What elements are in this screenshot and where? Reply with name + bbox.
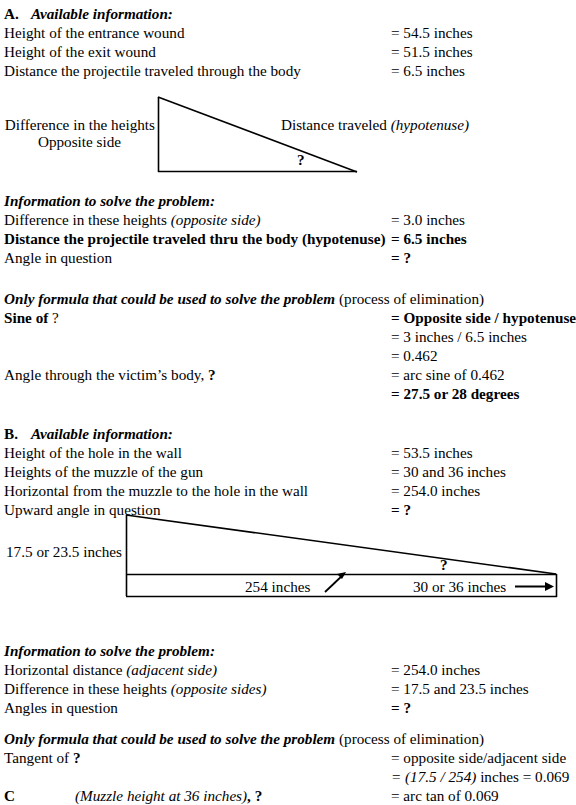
row-label: Distance the projectile traveled thru th… [4, 229, 385, 248]
hypotenuse-italic-text: (hypotenuse) [391, 116, 469, 133]
info-row: Height of the exit wound = 51.5 inches [0, 42, 571, 61]
row-value: = 3.0 inches [391, 210, 465, 229]
info-row: Angles in question = ? [0, 698, 571, 717]
formula-row: Tangent of ? = opposite side/adjacent si… [0, 748, 571, 767]
info-row: Difference in these heights (opposite si… [0, 679, 571, 698]
row-value: = 27.5 or 28 degrees [391, 384, 519, 403]
row-value: = 51.5 inches [391, 42, 473, 61]
row-label: Difference in these heights (opposite si… [4, 679, 267, 698]
info-row: Heights of the muzzle of the gun = 30 an… [0, 462, 571, 481]
info-b-heading: Information to solve the problem: [0, 641, 571, 660]
heading-text: Only formula that could be used to solve… [4, 289, 484, 308]
row-value: = (17.5 / 254) inches = 0.069 [391, 767, 569, 786]
row-value: = 30 and 36 inches [391, 462, 506, 481]
diagram-a-opposite-label-line2: Opposite side [4, 133, 155, 150]
hypotenuse-text: Distance traveled [281, 116, 387, 133]
row-label: Height of the exit wound [4, 42, 156, 61]
info-row: Horizontal from the muzzle to the hole i… [0, 481, 571, 500]
row-label: Distance the projectile traveled through… [4, 61, 301, 80]
formula-row: = 27.5 or 28 degrees [0, 384, 571, 403]
row-label: Difference in these heights (opposite si… [4, 210, 261, 229]
section-b-title: Available information: [31, 424, 173, 443]
section-c-title: (Muzzle height at 36 inches), ? [75, 786, 262, 805]
row-label: Heights of the muzzle of the gun [4, 462, 203, 481]
row-value: = ? [391, 248, 411, 267]
info-row: Height of the hole in the wall = 53.5 in… [0, 443, 571, 462]
row-label: Sine of ? [4, 308, 59, 327]
section-a-heading: A. Available information: [0, 4, 571, 23]
info-row: Difference in these heights (opposite si… [0, 210, 571, 229]
row-value: = 6.5 inches [391, 61, 465, 80]
info-row: Angle in question = ? [0, 248, 571, 267]
row-value: = Opposite side / hypotenuse [391, 308, 576, 327]
formula-row: = (17.5 / 254) inches = 0.069 [0, 767, 571, 786]
diagram-b-base-right-label: 30 or 36 inches [413, 578, 506, 595]
row-value: = 53.5 inches [391, 443, 473, 462]
diagram-a-angle-marker: ? [297, 152, 305, 167]
row-value: = 3 inches / 6.5 inches [391, 327, 527, 346]
row-label: Angle through the victim’s body, ? [4, 365, 216, 384]
diagram-b: 17.5 or 23.5 inches 254 inches 30 or 36 … [0, 508, 571, 603]
info-row: Distance the projectile traveled thru th… [0, 229, 571, 248]
section-b-heading: B. Available information: [0, 424, 571, 443]
row-label: Angle in question [4, 248, 112, 267]
section-c-row: C (Muzzle height at 36 inches), ? = arc … [0, 786, 571, 805]
diagram-a-hypotenuse-label: Distance traveled (hypotenuse) [281, 116, 469, 133]
row-label: Horizontal distance (adjacent side) [4, 660, 217, 679]
row-value: = arc sine of 0.462 [391, 365, 505, 384]
formula-row: = 3 inches / 6.5 inches [0, 327, 571, 346]
formula-row: Sine of ? = Opposite side / hypotenuse [0, 308, 571, 327]
row-label: Horizontal from the muzzle to the hole i… [4, 481, 308, 500]
row-label: Angles in question [4, 698, 118, 717]
diagram-a-opposite-label-line1: Difference in the heights [4, 116, 155, 133]
row-value: = 17.5 and 23.5 inches [391, 679, 529, 698]
heading-text: Only formula that could be used to solve… [4, 729, 484, 748]
section-c-letter: C [4, 786, 15, 805]
section-b-letter: B. [4, 424, 18, 443]
row-value: = arc tan of 0.069 [391, 786, 499, 805]
row-value: = 254.0 inches [391, 660, 480, 679]
formula-b-heading: Only formula that could be used to solve… [0, 729, 571, 748]
formula-row: Angle through the victim’s body, ? = arc… [0, 365, 571, 384]
row-label: Height of the entrance wound [4, 23, 185, 42]
formula-row: = 0.462 [0, 346, 571, 365]
info-row: Distance the projectile traveled through… [0, 61, 571, 80]
row-value: = 6.5 inches [391, 229, 467, 248]
row-value: = ? [391, 698, 411, 717]
row-value: = 254.0 inches [391, 481, 480, 500]
row-value: = 54.5 inches [391, 23, 473, 42]
diagram-a: Difference in the heights Opposite side … [0, 90, 571, 180]
info-row: Height of the entrance wound = 54.5 inch… [0, 23, 571, 42]
section-a-letter: A. [4, 4, 19, 23]
diagram-b-angle-marker: ? [440, 557, 448, 572]
row-value: = opposite side/adjacent side [391, 748, 566, 767]
row-label: Height of the hole in the wall [4, 443, 182, 462]
row-label: Tangent of ? [4, 748, 81, 767]
info-row: Horizontal distance (adjacent side) = 25… [0, 660, 571, 679]
diagram-b-base-left-label: 254 inches [245, 578, 310, 595]
diagram-b-opposite-label: 17.5 or 23.5 inches [2, 543, 122, 560]
formula-a-heading: Only formula that could be used to solve… [0, 289, 571, 308]
heading-text: Information to solve the problem: [4, 641, 215, 660]
heading-text: Information to solve the problem: [4, 191, 215, 210]
row-value: = 0.462 [391, 346, 438, 365]
info-a-heading: Information to solve the problem: [0, 191, 571, 210]
section-a-title: Available information: [31, 4, 173, 23]
